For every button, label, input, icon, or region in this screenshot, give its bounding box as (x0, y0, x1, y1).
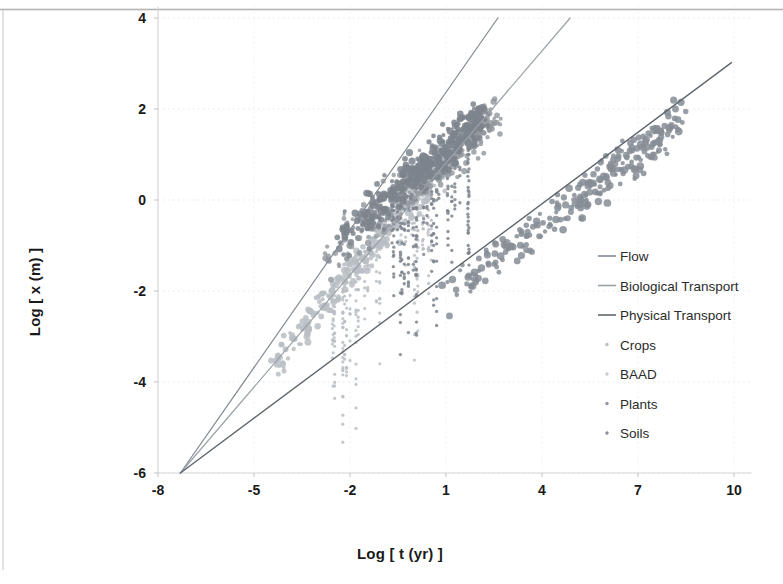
data-point (435, 226, 438, 229)
data-point (461, 114, 466, 119)
tick-labels: -6-4-2024-8-5-214710 (134, 10, 742, 498)
data-point (392, 275, 395, 278)
data-point (453, 287, 459, 293)
data-point (425, 214, 428, 217)
data-point (595, 198, 602, 205)
data-point (413, 254, 416, 257)
data-point (363, 317, 366, 320)
data-point (345, 225, 350, 230)
data-point (577, 182, 583, 188)
data-point (494, 264, 499, 269)
data-point (546, 224, 551, 229)
y-tick-label: 0 (138, 192, 146, 208)
data-point (392, 253, 395, 256)
x-tick-label: 7 (634, 482, 642, 498)
legend-item-soils[interactable]: Soils (605, 426, 649, 441)
data-point (415, 181, 418, 184)
data-point (425, 207, 428, 210)
data-point (452, 131, 458, 137)
data-point (432, 160, 435, 163)
data-point (629, 159, 634, 164)
data-point (430, 234, 433, 237)
data-point (629, 147, 635, 153)
data-point (471, 143, 477, 149)
data-point (442, 170, 447, 175)
data-point (427, 248, 430, 251)
legend-item-crops[interactable]: Crops (605, 338, 656, 353)
data-point (486, 262, 492, 268)
data-point (572, 201, 578, 207)
data-point (362, 219, 369, 226)
data-point (656, 137, 661, 142)
data-point (421, 243, 424, 246)
data-point (345, 306, 348, 309)
data-point (341, 441, 344, 444)
legend-item-biological-transport[interactable]: Biological Transport (598, 279, 739, 294)
legend-item-plants[interactable]: Plants (605, 397, 657, 412)
data-point (399, 221, 402, 224)
data-point (514, 258, 521, 265)
legend-marker-swatch (605, 372, 608, 375)
data-point (432, 152, 435, 155)
y-tick-label: 2 (138, 101, 146, 117)
data-point (499, 117, 503, 121)
data-point (279, 361, 286, 368)
data-point (342, 272, 347, 277)
data-point (584, 182, 592, 190)
data-point (467, 231, 470, 234)
data-point (430, 270, 433, 273)
data-point (458, 134, 461, 137)
data-point (437, 166, 440, 169)
data-point (354, 313, 357, 316)
scatter-chart-figure: -6-4-2024-8-5-214710FlowBiological Trans… (0, 0, 783, 584)
data-point (410, 212, 413, 215)
data-point (661, 123, 667, 129)
data-point (453, 198, 456, 201)
data-point (342, 216, 347, 221)
data-point (345, 367, 348, 370)
data-point (341, 317, 344, 320)
data-point (378, 302, 381, 305)
data-point (430, 197, 433, 200)
data-point (314, 295, 319, 300)
data-point (378, 280, 381, 283)
data-point (458, 166, 461, 169)
data-point (492, 96, 497, 101)
data-point (422, 221, 425, 224)
data-point (514, 234, 519, 239)
data-point (554, 210, 558, 214)
data-point (450, 140, 453, 143)
data-point (472, 138, 477, 143)
data-point (438, 147, 444, 153)
data-point (538, 212, 542, 216)
data-point (435, 158, 438, 161)
data-point (363, 250, 366, 253)
data-point (348, 239, 354, 245)
data-point (467, 251, 470, 254)
data-point (399, 225, 402, 228)
data-point (306, 308, 312, 314)
data-point (446, 218, 449, 221)
data-point (481, 123, 486, 128)
data-point (341, 423, 344, 426)
legend-item-physical-transport[interactable]: Physical Transport (598, 308, 731, 323)
legend-item-flow[interactable]: Flow (598, 249, 649, 264)
data-point (435, 236, 438, 239)
data-point (340, 225, 345, 230)
data-point (415, 234, 418, 237)
data-point (333, 340, 336, 343)
data-point (450, 214, 453, 217)
data-point (440, 122, 445, 127)
data-point (360, 228, 365, 233)
data-point (333, 324, 336, 327)
data-point (400, 241, 403, 244)
data-point (461, 168, 467, 174)
data-point (446, 185, 449, 188)
data-point (415, 257, 418, 260)
data-point (415, 320, 418, 323)
data-point (392, 234, 395, 237)
data-point (412, 263, 415, 266)
data-point (608, 164, 613, 169)
legend-item-baad[interactable]: BAAD (605, 367, 657, 382)
data-point (366, 267, 369, 270)
